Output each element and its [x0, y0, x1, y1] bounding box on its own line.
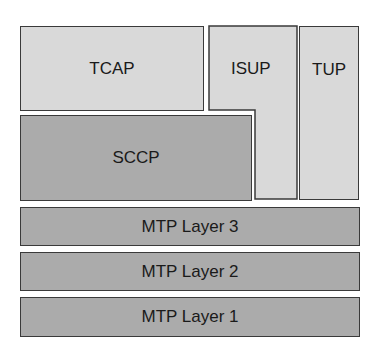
mtp-layer-1-label: MTP Layer 1: [141, 307, 238, 327]
sccp-label: SCCP: [112, 148, 159, 168]
mtp-layer-2-label: MTP Layer 2: [141, 262, 238, 282]
mtp-layer-1-block: MTP Layer 1: [20, 297, 360, 337]
mtp-layer-3-label: MTP Layer 3: [141, 217, 238, 237]
mtp-layer-3-block: MTP Layer 3: [20, 207, 360, 246]
sccp-block: SCCP: [20, 115, 252, 201]
isup-label: ISUP: [231, 59, 271, 79]
tup-block: TUP: [299, 26, 359, 200]
mtp-layer-2-block: MTP Layer 2: [20, 252, 360, 291]
tup-label: TUP: [312, 60, 346, 80]
